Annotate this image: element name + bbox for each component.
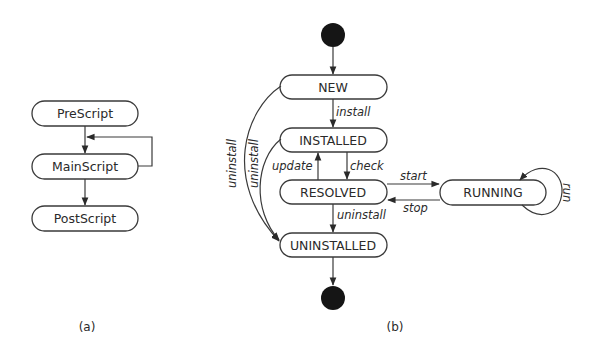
node-label: INSTALLED <box>299 133 367 148</box>
edge-label-run: run <box>560 183 574 202</box>
node-uninstalled: UNINSTALLED <box>280 233 387 257</box>
figure-b: NEW INSTALLED RESOLVED UNINSTALLED RUNNI… <box>225 23 574 334</box>
caption-b: (b) <box>387 320 404 334</box>
edge-label-stop: stop <box>403 201 428 215</box>
node-postscript: PostScript <box>32 206 138 231</box>
edge-label-check: check <box>350 159 385 173</box>
node-label: MainScript <box>52 159 118 174</box>
initial-state-icon <box>321 23 345 47</box>
node-new: NEW <box>280 75 387 99</box>
edge-label-uninstall-installed: uninstall <box>247 138 261 188</box>
node-label: PreScript <box>57 106 113 121</box>
node-resolved: RESOLVED <box>280 180 387 204</box>
node-label: NEW <box>318 80 348 95</box>
edge-label-update: update <box>272 159 313 173</box>
node-label: PostScript <box>54 211 117 226</box>
node-installed: INSTALLED <box>280 128 387 152</box>
edge-label-start: start <box>400 169 427 183</box>
edge-label-install: install <box>336 105 371 119</box>
final-state-icon <box>321 286 345 310</box>
edge-installed-uninstalled <box>260 139 281 240</box>
node-label: UNINSTALLED <box>290 238 376 253</box>
node-running: RUNNING <box>440 180 546 205</box>
edge-label-uninstall-resolved: uninstall <box>337 208 387 222</box>
caption-a: (a) <box>79 320 96 334</box>
diagram-canvas: PreScript MainScript PostScript (a) NEW … <box>0 0 598 354</box>
edge-label-uninstall-new: uninstall <box>225 138 239 188</box>
figure-a: PreScript MainScript PostScript (a) <box>32 101 152 334</box>
node-label: RUNNING <box>463 185 522 200</box>
node-mainscript: MainScript <box>32 154 138 179</box>
node-prescript: PreScript <box>32 101 138 126</box>
node-label: RESOLVED <box>300 185 366 200</box>
